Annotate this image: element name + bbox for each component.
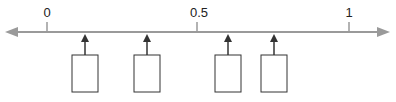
- left-arrowhead-icon: [5, 27, 18, 37]
- tick-label-1: 1: [345, 5, 352, 20]
- tick-label-0: 0: [43, 5, 50, 20]
- answer-box-3[interactable]: [215, 34, 241, 92]
- tick-label-0.5: 0.5: [190, 5, 208, 20]
- up-arrow-icon: [143, 34, 151, 42]
- up-arrow-icon: [81, 34, 89, 42]
- answer-box-4[interactable]: [261, 34, 287, 92]
- answer-box-2[interactable]: [134, 34, 160, 92]
- up-arrow-icon: [270, 34, 278, 42]
- right-arrowhead-icon: [377, 27, 390, 37]
- answer-box-1[interactable]: [72, 34, 98, 92]
- up-arrow-icon: [224, 34, 232, 42]
